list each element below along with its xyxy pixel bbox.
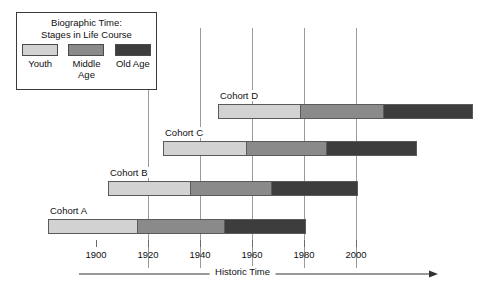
bar-cohort-c bbox=[163, 141, 417, 156]
life-course-cohort-chart: Biographic Time: Stages in Life Course Y… bbox=[0, 0, 485, 295]
segment-middle-age-cohort-d bbox=[300, 105, 383, 118]
tick-mark-1900 bbox=[96, 240, 97, 247]
segment-old-age-cohort-c bbox=[327, 142, 416, 155]
bar-label-cohort-c: Cohort C bbox=[164, 127, 204, 138]
tick-label-1980: 1980 bbox=[293, 249, 314, 260]
segment-youth-cohort-a bbox=[49, 220, 137, 233]
segment-middle-age-cohort-b bbox=[190, 182, 271, 195]
legend-label-youth: Youth bbox=[19, 58, 61, 69]
tick-mark-1960 bbox=[252, 240, 253, 247]
segment-youth-cohort-c bbox=[164, 142, 246, 155]
tick-label-1900: 1900 bbox=[85, 249, 106, 260]
legend-title-line2: Stages in Life Course bbox=[17, 29, 156, 41]
legend-title: Biographic Time: Stages in Life Course bbox=[17, 13, 156, 40]
bar-cohort-b bbox=[108, 181, 358, 196]
tick-label-1960: 1960 bbox=[241, 249, 262, 260]
legend-title-line1: Biographic Time: bbox=[51, 17, 122, 28]
segment-old-age-cohort-b bbox=[272, 182, 357, 195]
legend-label-old-age: Old Age bbox=[112, 58, 154, 69]
segment-old-age-cohort-d bbox=[384, 105, 472, 118]
legend-keys: Youth Middle Age Old Age bbox=[17, 44, 156, 80]
tick-mark-1940 bbox=[200, 240, 201, 247]
segment-youth-cohort-b bbox=[109, 182, 190, 195]
middle-age-swatch bbox=[68, 44, 104, 56]
old-age-swatch bbox=[115, 44, 151, 56]
tick-label-2000: 2000 bbox=[345, 249, 366, 260]
segment-youth-cohort-d bbox=[219, 105, 300, 118]
x-axis-label: Historic Time bbox=[209, 266, 276, 278]
bar-label-cohort-b: Cohort B bbox=[109, 167, 149, 178]
bar-label-cohort-a: Cohort A bbox=[49, 205, 88, 216]
legend-key-youth: Youth bbox=[19, 44, 61, 69]
bar-label-cohort-d: Cohort D bbox=[219, 90, 259, 101]
legend-key-middle-age: Middle Age bbox=[65, 44, 107, 80]
legend-box: Biographic Time: Stages in Life Course Y… bbox=[16, 12, 157, 90]
legend-label-middle-age: Middle Age bbox=[65, 58, 107, 80]
tick-label-1940: 1940 bbox=[189, 249, 210, 260]
segment-middle-age-cohort-a bbox=[137, 220, 224, 233]
bar-cohort-d bbox=[218, 104, 473, 119]
bar-cohort-a bbox=[48, 219, 306, 234]
tick-label-1920: 1920 bbox=[137, 249, 158, 260]
segment-old-age-cohort-a bbox=[225, 220, 305, 233]
youth-swatch bbox=[22, 44, 58, 56]
segment-middle-age-cohort-c bbox=[246, 142, 326, 155]
tick-mark-1980 bbox=[304, 240, 305, 247]
tick-mark-1920 bbox=[148, 240, 149, 247]
tick-mark-2000 bbox=[356, 240, 357, 247]
legend-key-old-age: Old Age bbox=[112, 44, 154, 69]
